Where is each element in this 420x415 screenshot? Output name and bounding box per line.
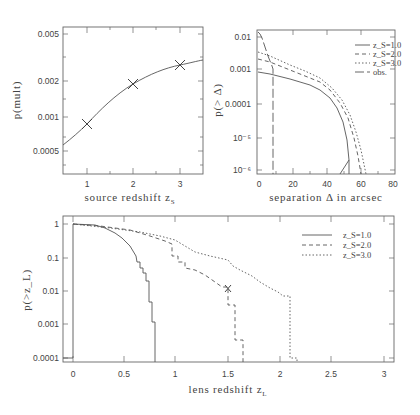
y-tick-label: 0.1 (47, 253, 59, 263)
y-tick-label: 0.0001 (225, 99, 251, 109)
x-tick-label: 0 (71, 369, 76, 379)
x-tick-label: 3 (178, 179, 183, 189)
x-tick-label: 3 (382, 369, 387, 379)
x-tick-label: 1.5 (222, 369, 234, 379)
y-tick-label: 10⁻⁵ (233, 133, 251, 143)
x-tick-label: 80 (388, 179, 398, 189)
panel-separation: 0.01 0.001 0.0001 10⁻⁵ 10⁻⁶ 0 20 40 60 8… (211, 30, 401, 203)
y-tick-label: 0.001 (230, 64, 252, 74)
y-ticks (63, 34, 203, 165)
curve-zs3 (73, 224, 297, 362)
curve-zs1 (63, 224, 155, 362)
curve-zs3 (258, 52, 366, 174)
y-tick-label: 0.0001 (33, 353, 59, 363)
x-ticks (87, 27, 180, 174)
legend-label: z_S=2.0 (343, 240, 371, 250)
y-tick-label: 0.01 (42, 286, 59, 296)
x-tick-label: 40 (322, 179, 332, 189)
x-tick-label: 1 (173, 369, 178, 379)
x-tick-label: 2 (278, 369, 283, 379)
pmult-curve (63, 60, 203, 145)
x-axis-label: separation Δ in arcsec (269, 191, 383, 203)
x-marker-icon (82, 60, 185, 129)
x-tick-label: 2 (131, 179, 136, 189)
legend-label: obs. (373, 67, 387, 77)
x-tick-label: 0 (257, 179, 262, 189)
panel-pmult: 0.005 0.002 0.001 0.0005 1 2 3 source re… (10, 27, 203, 206)
legend-label: z_S=1.0 (343, 230, 371, 240)
x-tick-label: 20 (288, 179, 298, 189)
y-tick-label: 0.002 (38, 76, 60, 86)
legend: z_S=1.0 z_S=2.0 z_S=3.0 (302, 230, 371, 260)
curve-obs (258, 32, 273, 174)
y-tick-label: 10⁻⁶ (233, 165, 251, 175)
plot-frame (63, 27, 203, 174)
x-axis-label: source redshift zS (85, 191, 176, 206)
figure: 0.005 0.002 0.001 0.0005 1 2 3 source re… (0, 0, 420, 415)
y-axis-label: p(> Δ) (211, 83, 224, 117)
y-axis-label: p(mult) (10, 81, 23, 120)
x-tick-label: 2.5 (325, 369, 337, 379)
curve-zs1 (258, 72, 349, 174)
legend: z_S=1.0 z_S=2.0 z_S=3.0 obs. (355, 40, 401, 77)
y-axis-label: p(>z_L) (20, 269, 33, 311)
x-ticks (276, 30, 378, 174)
y-tick-label: 0.0005 (33, 146, 59, 156)
y-tick-label: 0.005 (38, 29, 60, 39)
panel-lens-redshift: 1 0.1 0.01 0.001 0.0001 0 0.5 1 1.5 2 2.… (20, 216, 394, 398)
curve-zs2 (73, 224, 243, 362)
y-tick-label: 0.01 (234, 32, 251, 42)
y-tick-label: 0.001 (38, 319, 60, 329)
x-tick-label: 60 (356, 179, 366, 189)
x-tick-label: 0.5 (118, 369, 130, 379)
x-axis-label: lens redshift zL (189, 383, 268, 398)
y-tick-label: 0.001 (38, 112, 60, 122)
legend-label: z_S=3.0 (343, 250, 371, 260)
x-tick-label: 1 (85, 179, 90, 189)
y-tick-label: 1 (54, 219, 59, 229)
